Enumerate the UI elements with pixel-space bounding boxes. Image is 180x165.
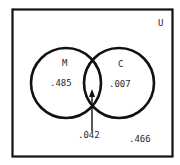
venn-diagram: U M .485 C .007 .042 .466 <box>0 0 180 165</box>
set-m-only-value: .485 <box>50 78 72 88</box>
intersection-value: .042 <box>78 130 100 140</box>
universe-label: U <box>158 18 163 28</box>
outside-value: .466 <box>129 134 151 144</box>
set-c-label: C <box>118 59 123 69</box>
set-c-only-value: .007 <box>109 79 131 89</box>
set-m-label: M <box>62 58 68 68</box>
